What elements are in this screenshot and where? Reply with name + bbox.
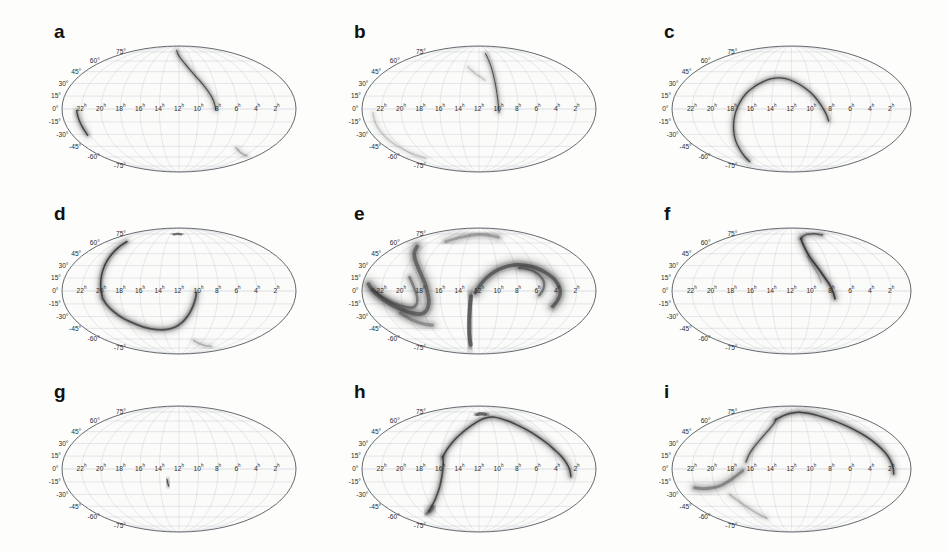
- mollweide-projection-d: 22h20h18h16h14h12h10h8h6h4h2h75°60°45°30…: [18, 200, 318, 378]
- dec-tick-label: -30°: [356, 131, 369, 138]
- mollweide-projection-g: 22h20h18h16h14h12h10h8h6h4h2h75°60°45°30…: [18, 378, 318, 552]
- dec-tick-label: 15°: [51, 274, 61, 281]
- dec-tick-label: -15°: [49, 300, 62, 307]
- dec-tick-label: 0°: [662, 287, 669, 294]
- dec-tick-label: -15°: [49, 478, 62, 485]
- sky-map-panel-h: h22h20h18h16h14h12h10h8h6h4h2h75°60°45°3…: [318, 378, 618, 552]
- dec-tick-label: 60°: [90, 239, 100, 246]
- sky-map-panel-g: g22h20h18h16h14h12h10h8h6h4h2h75°60°45°3…: [18, 378, 318, 552]
- dec-tick-label: 15°: [351, 92, 361, 99]
- stream-debris-g: [167, 479, 169, 486]
- stream-core: [469, 296, 471, 345]
- dec-tick-label: -45°: [680, 503, 693, 510]
- mollweide-projection-c: 22h20h18h16h14h12h10h8h6h4h2h75°60°45°30…: [628, 18, 933, 196]
- figure-root: a22h20h18h16h14h12h10h8h6h4h2h75°60°45°3…: [0, 0, 947, 552]
- dec-tick-label: 45°: [71, 250, 81, 257]
- dec-tick-label: 75°: [416, 230, 426, 237]
- dec-tick-label: -15°: [659, 118, 672, 125]
- dec-tick-label: -30°: [56, 491, 69, 498]
- dec-tick-label: -60°: [88, 335, 101, 342]
- sky-map-panel-e: e22h20h18h16h14h12h10h8h6h4h2h75°60°45°3…: [318, 200, 618, 378]
- dec-tick-label: 15°: [661, 92, 671, 99]
- dec-tick-label: -60°: [388, 153, 401, 160]
- panel-letter-b: b: [354, 22, 366, 41]
- dec-tick-label: 75°: [727, 230, 737, 237]
- panel-letter-d: d: [54, 204, 66, 223]
- stream-core: [477, 413, 486, 414]
- dec-tick-label: -75°: [114, 344, 127, 351]
- dec-tick-label: 0°: [352, 105, 359, 112]
- dec-tick-label: -60°: [388, 513, 401, 520]
- dec-tick-label: 15°: [661, 274, 671, 281]
- dec-tick-label: -45°: [369, 143, 382, 150]
- dec-tick-label: 75°: [116, 408, 126, 415]
- sky-map-panel-f: f22h20h18h16h14h12h10h8h6h4h2h75°60°45°3…: [628, 200, 933, 378]
- dec-tick-label: 60°: [701, 417, 711, 424]
- dec-tick-label: -75°: [414, 344, 427, 351]
- panel-letter-f: f: [664, 204, 670, 223]
- dec-tick-label: -30°: [667, 131, 680, 138]
- dec-tick-label: 30°: [669, 440, 679, 447]
- dec-tick-label: 15°: [51, 452, 61, 459]
- dec-tick-label: 60°: [390, 57, 400, 64]
- dec-tick-label: 15°: [351, 274, 361, 281]
- dec-tick-label: -60°: [88, 513, 101, 520]
- dec-tick-label: -60°: [88, 153, 101, 160]
- dec-tick-label: 0°: [52, 465, 59, 472]
- dec-tick-label: 30°: [358, 80, 368, 87]
- dec-tick-label: 60°: [390, 417, 400, 424]
- dec-tick-label: 60°: [390, 239, 400, 246]
- dec-tick-label: 45°: [71, 68, 81, 75]
- panel-letter-e: e: [354, 204, 365, 223]
- mollweide-projection-e: 22h20h18h16h14h12h10h8h6h4h2h75°60°45°30…: [318, 200, 618, 378]
- panel-letter-h: h: [354, 382, 366, 401]
- dec-tick-label: 45°: [682, 428, 692, 435]
- dec-tick-label: -30°: [56, 131, 69, 138]
- dec-tick-label: -15°: [349, 478, 362, 485]
- dec-tick-label: -15°: [659, 478, 672, 485]
- dec-tick-label: 30°: [358, 262, 368, 269]
- dec-tick-label: 30°: [669, 262, 679, 269]
- dec-tick-label: -15°: [659, 300, 672, 307]
- dec-tick-label: 0°: [52, 287, 59, 294]
- dec-tick-label: 60°: [701, 57, 711, 64]
- dec-tick-label: 60°: [90, 417, 100, 424]
- dec-tick-label: -30°: [56, 313, 69, 320]
- dec-tick-label: -75°: [114, 522, 127, 529]
- dec-tick-label: 0°: [662, 465, 669, 472]
- dec-tick-label: 60°: [90, 57, 100, 64]
- dec-tick-label: 30°: [58, 80, 68, 87]
- dec-tick-label: 75°: [416, 48, 426, 55]
- sky-map-panel-i: i22h20h18h16h14h12h10h8h6h4h2h75°60°45°3…: [628, 378, 933, 552]
- mollweide-projection-i: 22h20h18h16h14h12h10h8h6h4h2h75°60°45°30…: [628, 378, 933, 552]
- dec-tick-label: -15°: [349, 118, 362, 125]
- dec-tick-label: -45°: [69, 503, 82, 510]
- dec-tick-label: -75°: [114, 162, 127, 169]
- mollweide-projection-a: 22h20h18h16h14h12h10h8h6h4h2h75°60°45°30…: [18, 18, 318, 196]
- dec-tick-label: -45°: [680, 143, 693, 150]
- dec-tick-label: 15°: [661, 452, 671, 459]
- dec-tick-label: -15°: [49, 118, 62, 125]
- dec-tick-label: -45°: [69, 143, 82, 150]
- dec-tick-label: -60°: [388, 335, 401, 342]
- dec-tick-label: 75°: [727, 408, 737, 415]
- sky-map-panel-d: d22h20h18h16h14h12h10h8h6h4h2h75°60°45°3…: [18, 200, 318, 378]
- dec-tick-label: 60°: [701, 239, 711, 246]
- dec-tick-label: -45°: [369, 325, 382, 332]
- dec-tick-label: -30°: [667, 313, 680, 320]
- dec-tick-label: 75°: [727, 48, 737, 55]
- dec-tick-label: 75°: [116, 230, 126, 237]
- dec-tick-label: 15°: [51, 92, 61, 99]
- sky-map-panel-b: b22h20h18h16h14h12h10h8h6h4h2h75°60°45°3…: [318, 18, 618, 196]
- dec-tick-label: -75°: [725, 344, 738, 351]
- mollweide-projection-h: 22h20h18h16h14h12h10h8h6h4h2h75°60°45°30…: [318, 378, 618, 552]
- sky-map-panel-a: a22h20h18h16h14h12h10h8h6h4h2h75°60°45°3…: [18, 18, 318, 196]
- dec-tick-label: 0°: [662, 105, 669, 112]
- dec-tick-label: -15°: [349, 300, 362, 307]
- sky-map-panel-c: c22h20h18h16h14h12h10h8h6h4h2h75°60°45°3…: [628, 18, 933, 196]
- dec-tick-label: -60°: [699, 335, 712, 342]
- dec-tick-label: 45°: [371, 250, 381, 257]
- dec-tick-label: 45°: [682, 250, 692, 257]
- dec-tick-label: 15°: [351, 452, 361, 459]
- panel-letter-a: a: [54, 22, 65, 41]
